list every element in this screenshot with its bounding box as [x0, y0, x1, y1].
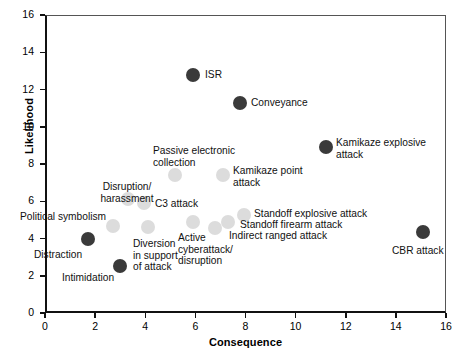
- y-tick-mark: [40, 163, 45, 165]
- x-tick-mark: [445, 313, 447, 318]
- x-tick-label: 10: [281, 320, 311, 332]
- y-tick-label: 12: [4, 83, 34, 95]
- x-tick-mark: [345, 313, 347, 318]
- point-label: Disruption/ harassment: [100, 181, 153, 204]
- x-tick-label: 0: [30, 320, 60, 332]
- x-tick-label: 6: [180, 320, 210, 332]
- point-label: Standoff firearm attack: [240, 219, 342, 231]
- point-label: Distraction: [34, 249, 82, 261]
- x-tick-label: 14: [381, 320, 411, 332]
- scatter-point: [416, 225, 430, 239]
- y-tick-label: 16: [4, 8, 34, 20]
- point-label: Active cyberattack/ disruption: [178, 232, 233, 267]
- point-label: Conveyance: [251, 97, 308, 109]
- scatter-point: [319, 140, 333, 154]
- y-tick-mark: [40, 14, 45, 16]
- x-axis-title: Consequence: [45, 336, 446, 348]
- x-tick-mark: [295, 313, 297, 318]
- scatter-point: [186, 68, 200, 82]
- point-label: ISR: [205, 69, 222, 81]
- x-tick-mark: [395, 313, 397, 318]
- y-tick-mark: [40, 126, 45, 128]
- y-tick-label: 10: [4, 120, 34, 132]
- scatter-point: [186, 215, 200, 229]
- x-tick-mark: [145, 313, 147, 318]
- point-label: Intimidation: [62, 272, 114, 284]
- scatter-point: [106, 219, 120, 233]
- scatter-point: [168, 168, 182, 182]
- y-tick-label: 14: [4, 45, 34, 57]
- risk-scatter-chart: Likelihood Consequence 02468101214160246…: [0, 0, 461, 358]
- y-tick-mark: [40, 275, 45, 277]
- x-tick-label: 12: [331, 320, 361, 332]
- y-tick-mark: [40, 52, 45, 54]
- scatter-point: [233, 96, 247, 110]
- y-tick-label: 8: [4, 157, 34, 169]
- scatter-point: [141, 220, 155, 234]
- y-tick-label: 2: [4, 269, 34, 281]
- x-tick-label: 4: [130, 320, 160, 332]
- y-tick-mark: [40, 201, 45, 203]
- y-tick-label: 4: [4, 232, 34, 244]
- x-tick-mark: [195, 313, 197, 318]
- point-label: C3 attack: [155, 198, 198, 210]
- point-label: CBR attack: [392, 245, 444, 257]
- y-tick-mark: [40, 238, 45, 240]
- y-tick-mark: [40, 89, 45, 91]
- scatter-point: [81, 232, 95, 246]
- point-label: Kamikaze point attack: [233, 165, 303, 188]
- x-tick-label: 8: [231, 320, 261, 332]
- x-tick-label: 2: [80, 320, 110, 332]
- scatter-point: [216, 168, 230, 182]
- x-tick-mark: [94, 313, 96, 318]
- scatter-point: [221, 215, 235, 229]
- scatter-point: [113, 259, 127, 273]
- point-label: Standoff explosive attack: [254, 208, 367, 220]
- x-tick-mark: [245, 313, 247, 318]
- point-label: Diversion in support of attack: [133, 238, 178, 273]
- point-label: Passive electronic collection: [153, 145, 235, 168]
- x-tick-label: 16: [431, 320, 461, 332]
- point-label: Indirect ranged attack: [229, 230, 327, 242]
- y-tick-label: 0: [4, 306, 34, 318]
- y-tick-label: 6: [4, 194, 34, 206]
- plot-area: [45, 15, 446, 313]
- x-tick-mark: [44, 313, 46, 318]
- point-label: Kamikaze explosive attack: [336, 137, 426, 160]
- point-label: Political symbolism: [20, 211, 106, 223]
